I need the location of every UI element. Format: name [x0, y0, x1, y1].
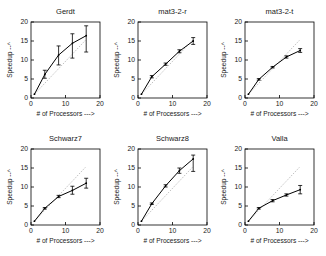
x-axis-label: # of Processors --->: [36, 110, 94, 117]
y-tick-label: 5: [238, 75, 242, 82]
ideal-speedup-reference-line: [34, 39, 86, 94]
data-point-marker: [286, 56, 288, 58]
subplot-title: Schwarz7: [49, 134, 82, 143]
y-tick-label: 5: [238, 202, 242, 209]
y-tick-label: 10: [127, 183, 135, 190]
data-point-marker: [192, 158, 194, 160]
x-tick-label: 20: [203, 227, 211, 234]
data-point-marker: [165, 63, 167, 65]
x-tick-label: 20: [203, 100, 211, 107]
data-point-marker: [72, 42, 74, 44]
speedup-data-line: [248, 190, 300, 222]
y-tick-label: 0: [24, 94, 28, 101]
x-tick-label: 10: [276, 100, 284, 107]
y-tick-label: 15: [127, 164, 135, 171]
data-point-marker: [44, 207, 46, 209]
y-axis-label: Speedup --^: [113, 41, 121, 78]
y-tick-label: 20: [234, 145, 242, 152]
subplot-mat3-2-r: mat3-2-r0102005101520# of Processors ---…: [107, 0, 215, 128]
y-tick-label: 10: [20, 56, 28, 63]
x-tick-label: 0: [29, 100, 33, 107]
ideal-speedup-reference-line: [34, 166, 86, 221]
data-point-marker: [44, 74, 46, 76]
y-tick-label: 20: [127, 145, 135, 152]
y-tick-label: 5: [24, 75, 28, 82]
y-tick-label: 20: [127, 18, 135, 25]
data-point-marker: [299, 50, 301, 52]
x-tick-label: 20: [96, 227, 104, 234]
y-tick-label: 20: [234, 18, 242, 25]
speedup-figure: Gerdt0102005101520# of Processors --->Sp…: [0, 0, 326, 256]
y-axis-label: Speedup --^: [220, 41, 228, 78]
y-axis-label: Speedup --^: [220, 168, 228, 205]
subplot-mat3-2-t: mat3-2-t0102005101520# of Processors ---…: [214, 0, 322, 128]
x-tick-label: 20: [310, 227, 318, 234]
y-tick-label: 20: [20, 18, 28, 25]
data-point-marker: [258, 78, 260, 80]
data-point-marker: [165, 185, 167, 187]
y-tick-label: 0: [131, 221, 135, 228]
y-tick-label: 15: [234, 37, 242, 44]
data-point-marker: [248, 220, 250, 222]
x-tick-label: 20: [310, 100, 318, 107]
y-tick-label: 0: [238, 221, 242, 228]
y-tick-label: 0: [24, 221, 28, 228]
x-tick-label: 10: [169, 227, 177, 234]
y-tick-label: 5: [131, 75, 135, 82]
subplot-title: Schwarz8: [156, 134, 189, 143]
data-point-marker: [141, 220, 143, 222]
x-tick-label: 10: [62, 100, 70, 107]
x-tick-label: 10: [62, 227, 70, 234]
data-point-marker: [272, 66, 274, 68]
data-point-marker: [34, 93, 36, 95]
y-tick-label: 10: [20, 183, 28, 190]
x-axis-label: # of Processors --->: [143, 237, 201, 244]
y-tick-label: 10: [234, 183, 242, 190]
x-axis-label: # of Processors --->: [250, 110, 308, 117]
data-point-marker: [248, 93, 250, 95]
data-point-marker: [286, 194, 288, 196]
x-tick-label: 0: [243, 227, 247, 234]
x-axis-label: # of Processors --->: [143, 110, 201, 117]
subplot-title: mat3-2-r: [158, 7, 187, 16]
subplot-title: Valla: [271, 134, 288, 143]
ideal-speedup-reference-line: [248, 166, 300, 221]
speedup-data-line: [141, 159, 193, 221]
speedup-data-line: [34, 183, 86, 221]
y-tick-label: 5: [131, 202, 135, 209]
data-point-marker: [141, 93, 143, 95]
x-tick-label: 0: [136, 227, 140, 234]
plot-frame: [138, 149, 207, 225]
y-tick-label: 10: [234, 56, 242, 63]
data-point-marker: [192, 40, 194, 42]
y-tick-label: 10: [127, 56, 135, 63]
x-axis-label: # of Processors --->: [250, 237, 308, 244]
x-tick-label: 20: [96, 100, 104, 107]
data-point-marker: [258, 207, 260, 209]
x-tick-label: 10: [276, 227, 284, 234]
y-tick-label: 0: [238, 94, 242, 101]
plot-frame: [245, 149, 314, 225]
ideal-speedup-reference-line: [141, 39, 193, 94]
subplot-schwarz8: Schwarz80102005101520# of Processors ---…: [107, 127, 215, 255]
data-point-marker: [299, 189, 301, 191]
x-tick-label: 0: [243, 100, 247, 107]
x-tick-label: 0: [136, 100, 140, 107]
subplot-valla: Valla0102005101520# of Processors --->Sp…: [214, 127, 322, 255]
y-axis-label: Speedup --^: [113, 168, 121, 205]
data-point-marker: [72, 190, 74, 192]
data-point-marker: [179, 170, 181, 172]
subplot-gerdt: Gerdt0102005101520# of Processors --->Sp…: [0, 0, 108, 128]
plot-frame: [245, 22, 314, 98]
y-tick-label: 15: [20, 164, 28, 171]
speedup-data-line: [248, 51, 300, 95]
x-tick-label: 10: [169, 100, 177, 107]
plot-frame: [138, 22, 207, 98]
plot-frame: [31, 149, 100, 225]
data-point-marker: [85, 182, 87, 184]
data-point-marker: [151, 203, 153, 205]
data-point-marker: [58, 54, 60, 56]
ideal-speedup-reference-line: [141, 166, 193, 221]
data-point-marker: [85, 35, 87, 37]
y-tick-label: 15: [127, 37, 135, 44]
